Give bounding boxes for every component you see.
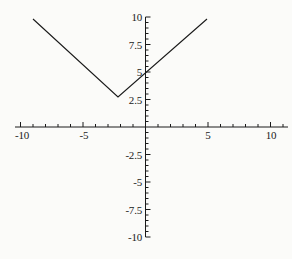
- y-tick-label-neg-2-5: -2.5: [125, 149, 142, 160]
- y-tick-label-neg-7-5: -7.5: [125, 204, 142, 215]
- y-tick-label-10: 10: [131, 12, 142, 23]
- y-tick-label-neg-5: -5: [133, 177, 142, 188]
- y-tick-label-2-5: 2.5: [129, 94, 142, 105]
- plot-canvas: [0, 0, 292, 259]
- x-tick-label-neg-5: -5: [80, 130, 89, 141]
- x-tick-label-10: 10: [266, 130, 277, 141]
- x-axis-minor-ticks: [33, 124, 283, 127]
- y-tick-label-7-5: 7.5: [129, 39, 142, 50]
- y-tick-label-neg-10: -10: [128, 232, 142, 243]
- y-tick-label-5: 5: [137, 67, 142, 78]
- x-tick-label-5: 5: [205, 130, 210, 141]
- x-tick-label-neg-10: -10: [15, 130, 29, 141]
- plot-figure: -10 -5 5 10 10 7.5 5 2.5 -2.5 -5 -7.5 -1…: [0, 0, 292, 259]
- data-series-line: [33, 19, 207, 97]
